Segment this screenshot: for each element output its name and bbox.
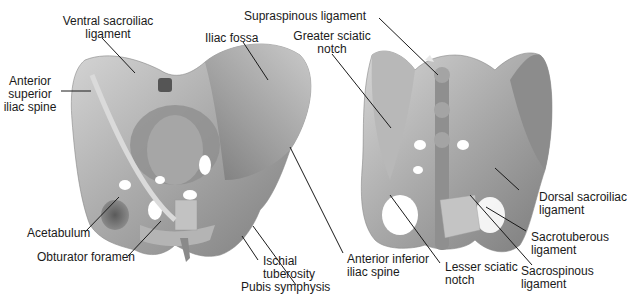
label-supraspinous-ligament: Supraspinous ligament [244,10,366,23]
label-line: iliac spine [347,266,429,279]
label-obturator-foramen: Obturator foramen [37,251,135,264]
label-line: notch [282,43,382,56]
label-ischial-tuberosity: Ischial tuberosity [263,255,315,281]
label-line: ligament [539,204,627,217]
label-acetabulum: Acetabulum [27,227,90,240]
label-anterior-inferior-iliac-spine: Anterior inferior iliac spine [347,253,429,279]
label-line: ligament [521,278,594,291]
label-sacrotuberous-ligament: Sacrotuberous ligament [531,231,609,257]
label-pubis-symphysis: Pubis symphysis [241,281,330,294]
posterior-pelvis [361,51,552,252]
label-line: iliac spine [2,101,58,114]
label-anterior-superior-iliac-spine: Anterior superior iliac spine [2,75,58,114]
label-ventral-sacroiliac-ligament: Ventral sacroiliac ligament [18,15,198,41]
label-line: ligament [18,28,198,41]
label-dorsal-sacroiliac-ligament: Dorsal sacroiliac ligament [539,191,627,217]
label-sacrospinous-ligament: Sacrospinous ligament [521,265,594,291]
label-iliac-fossa: Iliac fossa [205,32,258,45]
anterior-pelvis [71,44,311,262]
label-line: ligament [531,244,609,257]
label-greater-sciatic-notch: Greater sciatic notch [282,30,382,56]
label-lesser-sciatic-notch: Lesser sciatic notch [445,261,518,287]
label-line: notch [445,274,518,287]
